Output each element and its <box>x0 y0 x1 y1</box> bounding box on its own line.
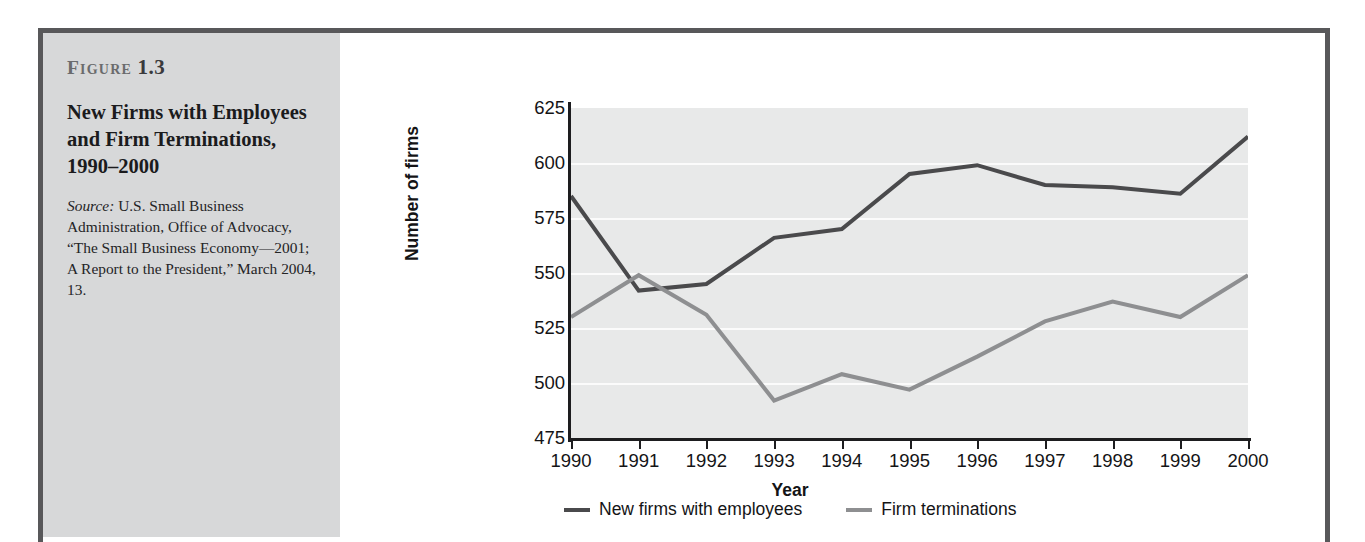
legend-label: Firm terminations <box>881 499 1016 520</box>
y-axis-line <box>568 102 571 442</box>
figure-frame: Figure 1.3 New Firms with Employees and … <box>38 28 1330 542</box>
figure-label: Figure 1.3 <box>67 55 320 80</box>
x-axis-tick-label: 1997 <box>1010 450 1080 472</box>
x-axis-tick-label: 1992 <box>671 450 741 472</box>
x-axis-tick-label: 1993 <box>739 450 809 472</box>
y-axis-tick-label: 500 <box>503 372 565 394</box>
y-axis-tick-label: 625 <box>503 97 565 119</box>
x-axis-tick <box>910 438 912 449</box>
series-line <box>571 137 1248 291</box>
x-axis-title: Year <box>340 480 1240 501</box>
x-axis-tick <box>1180 438 1182 449</box>
series-layer <box>571 108 1248 438</box>
x-axis-tick <box>639 438 641 449</box>
x-axis-tick <box>1045 438 1047 449</box>
legend-line-icon <box>564 508 590 512</box>
x-axis-tick-label: 1995 <box>875 450 945 472</box>
y-axis-tick-label: 575 <box>503 207 565 229</box>
y-axis-tick-label: 475 <box>503 427 565 449</box>
source-keyword: Source: <box>67 197 114 214</box>
x-axis-tick-label: 1994 <box>807 450 877 472</box>
x-axis-tick <box>842 438 844 449</box>
legend-item: New firms with employees <box>564 499 802 520</box>
figure-label-number: 1.3 <box>137 55 165 79</box>
x-axis-tick <box>706 438 708 449</box>
plot-wrapper: 475500525550575600625 199019911992199319… <box>571 108 1248 438</box>
x-axis-tick-label: 1996 <box>942 450 1012 472</box>
figure-label-word: Figure <box>67 57 132 78</box>
chart-legend: New firms with employeesFirm termination… <box>564 499 1016 520</box>
x-axis-tick <box>1113 438 1115 449</box>
x-axis-tick <box>774 438 776 449</box>
series-line <box>571 275 1248 400</box>
chart-region: Number of firms 475500525550575600625 19… <box>340 33 1330 537</box>
y-axis-tick-label: 600 <box>503 152 565 174</box>
y-axis-tick-label: 525 <box>503 317 565 339</box>
x-axis-tick <box>1248 438 1250 449</box>
x-axis-tick-label: 2000 <box>1213 450 1283 472</box>
x-axis-tick-label: 1991 <box>604 450 674 472</box>
legend-label: New firms with employees <box>599 499 802 520</box>
figure-title: New Firms with Employees and Firm Termin… <box>67 99 320 180</box>
x-axis-tick-label: 1998 <box>1078 450 1148 472</box>
figure-source: Source: U.S. Small Business Administrati… <box>67 196 320 301</box>
x-axis-tick-label: 1999 <box>1145 450 1215 472</box>
legend-item: Firm terminations <box>846 499 1016 520</box>
x-axis-tick-label: 1990 <box>536 450 606 472</box>
y-axis-title: Number of firms <box>402 114 423 274</box>
legend-line-icon <box>846 508 872 512</box>
caption-panel: Figure 1.3 New Firms with Employees and … <box>43 33 340 537</box>
x-axis-tick <box>977 438 979 449</box>
y-axis-tick-label: 550 <box>503 262 565 284</box>
x-axis-tick <box>571 438 573 449</box>
